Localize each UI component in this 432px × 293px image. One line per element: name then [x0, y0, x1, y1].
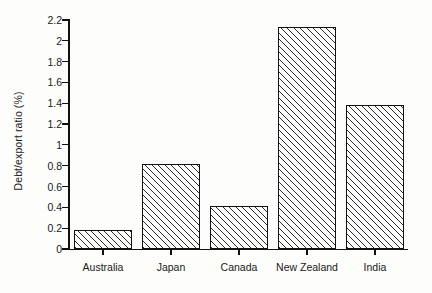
y-axis-tick-labels: 00.20.40.60.811.21.41.61.822.2 [0, 0, 62, 293]
bar-chart-figure: Debt/export ratio (%) 00.20.40.60.811.21… [0, 0, 432, 293]
y-axis-tick-label: 0.4 [6, 201, 62, 213]
y-axis-tick-label: 1.8 [6, 56, 62, 68]
x-axis-tick-label: Canada [221, 261, 258, 273]
y-axis-tick-label: 1.6 [6, 76, 62, 88]
x-axis-tick [238, 249, 239, 255]
x-axis-tick-label: Australia [83, 261, 124, 273]
y-axis-tick-label: 0.6 [6, 181, 62, 193]
x-axis-tick [102, 249, 103, 255]
x-axis-tick [374, 249, 375, 255]
y-axis-tick-label: 2.2 [6, 14, 62, 26]
bar [74, 230, 132, 249]
x-axis-tick-label: India [364, 261, 387, 273]
y-axis-tick-label: 1.2 [6, 118, 62, 130]
bar [142, 164, 200, 249]
y-axis-line [68, 19, 70, 250]
y-axis-tick-label: 0.8 [6, 160, 62, 172]
y-axis-tick-label: 1.4 [6, 97, 62, 109]
x-axis-tick-label: New Zealand [276, 261, 338, 273]
y-axis-tick-label: 2 [6, 35, 62, 47]
bar [346, 105, 404, 249]
x-axis-tick [306, 249, 307, 255]
bar [210, 206, 268, 249]
y-axis-tick-label: 1 [6, 139, 62, 151]
y-axis-tick-label: 0 [6, 243, 62, 255]
x-axis-tick-label: Japan [157, 261, 186, 273]
bar [278, 27, 336, 249]
x-axis-tick [170, 249, 171, 255]
y-axis-tick-label: 0.2 [6, 222, 62, 234]
